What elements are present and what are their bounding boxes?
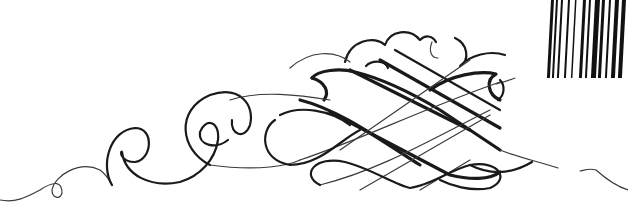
barcode-bar	[611, 0, 619, 78]
barcode-bar	[605, 0, 611, 78]
barcode-bar	[571, 0, 577, 78]
barcode-bar	[557, 0, 563, 78]
flourish-ornament	[0, 0, 628, 224]
barcode-bar	[618, 0, 626, 78]
barcode-bar	[585, 0, 591, 78]
left-tail-flourish	[0, 92, 300, 201]
barcode-bar	[579, 0, 586, 78]
barcode-bar	[564, 0, 570, 78]
barcode	[547, 0, 626, 78]
